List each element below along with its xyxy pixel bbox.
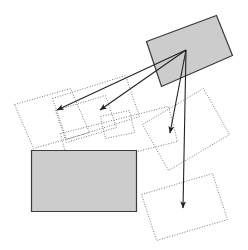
gray-rect-bottom-left	[32, 151, 137, 212]
rectangles-arrows-scene	[0, 0, 248, 250]
diagram-canvas	[0, 0, 248, 250]
